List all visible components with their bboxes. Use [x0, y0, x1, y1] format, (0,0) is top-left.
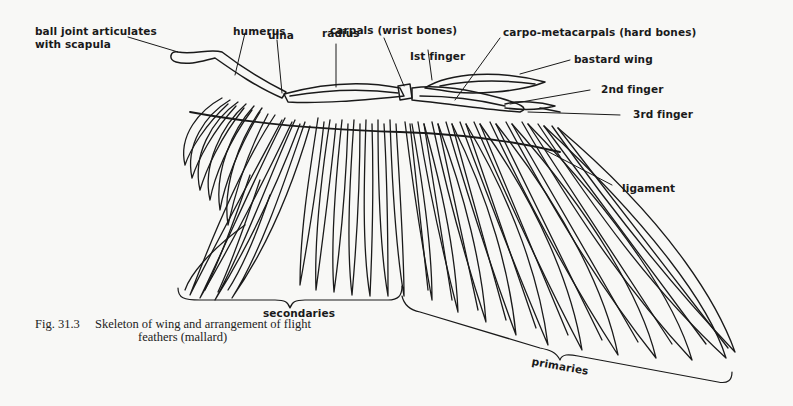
caption-line-2: feathers (mallard) — [35, 331, 311, 344]
label-bastard-wing: bastard wing — [574, 53, 653, 66]
caption-line-1: Skeleton of wing and arrangement of flig… — [95, 317, 311, 331]
label-second-finger: 2nd finger — [601, 83, 663, 96]
label-ulna: ulna — [268, 29, 294, 42]
humerus-bone — [171, 51, 286, 98]
wing-bones — [171, 51, 560, 112]
figure-caption: Fig. 31.3Skeleton of wing and arrangemen… — [35, 318, 311, 344]
label-ball-joint: ball joint articulates with scapula — [35, 25, 157, 51]
radius-bone — [290, 90, 398, 96]
label-carpo-metacarpals: carpo-metacarpals (hard bones) — [503, 26, 696, 39]
label-ligament: ligament — [622, 182, 675, 195]
secondary-feathers — [184, 98, 404, 300]
label-carpals: carpals (wrist bones) — [330, 24, 457, 37]
wing-diagram — [0, 0, 793, 406]
primary-feathers — [405, 122, 735, 360]
label-first-finger: Ist finger — [410, 50, 465, 63]
figure-number: Fig. 31.3 — [35, 318, 95, 331]
label-third-finger: 3rd finger — [633, 108, 693, 121]
ulna-bone — [284, 84, 404, 103]
